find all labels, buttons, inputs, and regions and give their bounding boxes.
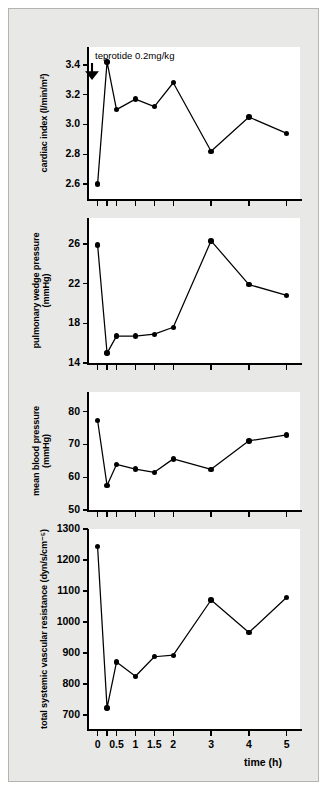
dose-annotation-label: teprotide 0.2mg/kg xyxy=(95,50,174,61)
data-point xyxy=(171,653,176,658)
data-point xyxy=(246,630,251,635)
x-tick-label: 3 xyxy=(191,738,231,750)
x-tick-label: 5 xyxy=(267,738,307,750)
series-line-3 xyxy=(9,9,320,783)
data-point xyxy=(104,705,109,710)
x-axis-title: time (h) xyxy=(244,756,282,768)
x-tick-label: 2 xyxy=(153,738,193,750)
data-point xyxy=(114,659,119,664)
data-point xyxy=(208,597,213,602)
data-point xyxy=(133,674,138,679)
dose-arrow-icon xyxy=(85,63,99,85)
figure-container: 2.62.83.03.23.4cardiac index (l/min/m²)1… xyxy=(8,8,319,782)
x-tick-label: 4 xyxy=(229,738,269,750)
